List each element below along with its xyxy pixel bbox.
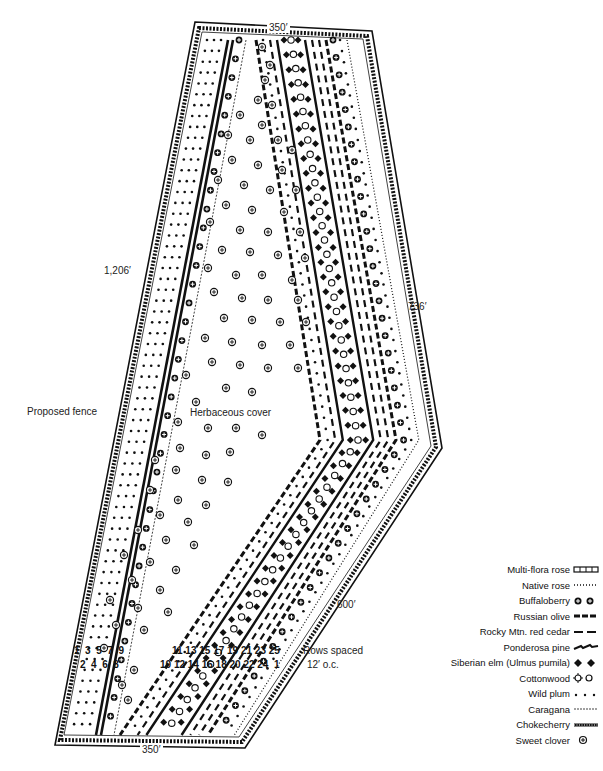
sweet-clover-icon [204,424,211,431]
row-numbers-right-top: 11 13 15 17 19 21 23 25 [172,645,280,656]
legend-label: Wild plum [528,688,570,699]
sweet-clover-icon [246,248,253,255]
sweet-clover-icon [292,186,299,193]
sweet-clover-icon [106,596,113,603]
sweet-clover-icon [294,296,301,303]
legend-item: Rocky Mtn. red cedar [420,624,603,640]
sweet-clover-icon [146,558,153,565]
legend-item: Chokecherry [420,717,603,733]
sweet-clover-icon [301,254,308,261]
sweet-clover-icon [128,576,135,583]
sweet-clover-icon [120,551,127,558]
legend-label: Caragana [528,704,570,715]
legend-item: Native rose [420,578,603,594]
sweet-clover-icon [246,136,253,143]
sweet-clover-icon [573,735,603,745]
legend-item: Wild plum [420,686,603,702]
sweet-clover-icon [214,176,221,183]
sweet-clover-icon [151,456,158,463]
sweet-clover-icon [240,181,247,188]
row-numbers-left-bottom: 2 4 6 8 [80,659,119,670]
legend-label: Buffaloberry [519,595,570,606]
dim-right-upper: 736′ [408,301,427,312]
sweet-clover-icon [238,294,245,301]
sweet-clover-icon [202,451,209,458]
sweet-clover-icon [264,296,271,303]
sweet-clover-icon [210,288,217,295]
sweet-clover-icon [236,226,243,233]
sweet-clover-icon [134,526,141,533]
sweet-clover-icon [274,136,281,143]
cottonwood-icon [573,673,603,683]
legend-label: Ponderosa pine [503,642,570,653]
herbaceous-cover-label: Herbaceous cover [190,407,271,418]
wild-plum-icon [573,690,603,698]
sweet-clover-icon [201,334,208,341]
legend-item: Ponderosa pine [420,640,603,656]
legend-label: Sweet clover [516,735,570,746]
sweet-clover-icon [254,161,261,168]
sweet-clover-icon [248,206,255,213]
sweet-clover-icon [222,201,229,208]
sweet-clover-icon [156,511,163,518]
sweet-clover-icon [172,466,179,473]
sweet-clover-icon [266,61,273,68]
chokecherry-icon [573,721,603,729]
russian-olive-icon [573,612,603,620]
dim-right-lower: 600′ [337,599,356,610]
legend-item: Siberian elm (Ulmus pumila) [420,655,603,671]
sweet-clover-icon [302,318,309,325]
caragana-icon [573,705,603,713]
legend-item: Russian olive [420,609,603,625]
sweet-clover-icon [224,478,231,485]
sweet-clover-icon [204,264,211,271]
sweet-clover-icon [182,371,189,378]
sweet-clover-icon [278,166,285,173]
sweet-clover-icon [294,364,301,371]
sweet-clover-icon [232,271,239,278]
sweet-clover-icon [218,246,225,253]
legend-label: Rocky Mtn. red cedar [480,626,570,637]
sweet-clover-icon [264,364,271,371]
sweet-clover-icon [236,361,243,368]
legend-label: Chokecherry [516,719,570,730]
sweet-clover-icon [236,111,243,118]
multiflora-rose-icon [573,566,603,574]
legend-item: Multi-flora rose [420,562,603,578]
sweet-clover-icon [220,314,227,321]
sweet-clover-icon [174,418,181,425]
sweet-clover-icon [228,156,235,163]
sweet-clover-icon [146,486,153,493]
legend-item: Cottonwood [420,671,603,687]
sweet-clover-icon [198,476,205,483]
sweet-clover-icon [208,358,215,365]
sweet-clover-icon [190,541,197,548]
legend-label: Russian olive [514,611,571,622]
legend-label: Cottonwood [519,673,570,684]
legend: Multi-flora roseNative roseBuffaloberryR… [420,562,603,748]
sweet-clover-icon [224,131,231,138]
legend-item: Buffaloberry [420,593,603,609]
sweet-clover-icon [286,341,293,348]
sweet-clover-icon [176,444,183,451]
sweet-clover-icon [192,398,199,405]
sweet-clover-icon [112,621,119,628]
siberian-elm-icon [573,658,603,668]
sweet-clover-icon [264,228,271,235]
spacing-label-2: 12′ o.c. [307,659,339,670]
sweet-clover-icon [254,96,261,103]
sweet-clover-icon [248,388,255,395]
legend-item: Sweet clover [420,733,603,749]
sweet-clover-icon [232,424,239,431]
dim-left: 1,206′ [104,265,131,276]
sweet-clover-icon [296,228,303,235]
fence-label: Proposed fence [27,406,97,417]
sweet-clover-icon [162,536,169,543]
spacing-label-1: Rows spaced [303,645,363,656]
sweet-clover-icon [174,496,181,503]
sweet-clover-icon [124,696,131,703]
sweet-clover-icon [228,338,235,345]
sweet-clover-icon [258,341,265,348]
native-rose-icon [573,581,603,589]
sweet-clover-icon [202,501,209,508]
